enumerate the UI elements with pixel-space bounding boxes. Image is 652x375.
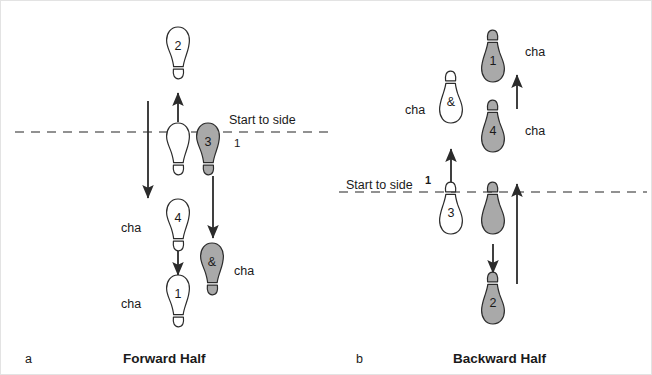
footprints-forward-half: 234&1 [167,27,224,327]
panel-caption-forward-half: Forward Half [123,352,206,366]
footprint-b-3: 3 [440,182,463,234]
cha-label-cha-b-4: cha [525,125,545,138]
footprint-f-3: 3 [197,123,220,175]
footprint-f-open [167,123,190,175]
start-to-side-label-forward: Start to side [229,114,296,127]
start-beat-backward: 1 [425,175,431,186]
footprint-step-number: & [208,255,217,269]
footprint-f-2: 2 [167,27,190,79]
footprint-step-number: 4 [490,124,497,138]
footprint-step-number: 2 [175,39,182,53]
footwork-diagram-svg: 234&1 1&432 [1,1,652,375]
footprint-step-number: 3 [205,135,212,149]
footprint-b-amp: & [440,71,463,123]
panel-letter-b: b [356,353,363,366]
cha-label-cha-left-4: cha [121,222,141,235]
start-to-side-label-backward: Start to side [346,179,413,192]
dashed-lines-group [15,132,647,192]
footprint-shape [167,123,190,175]
footprint-step-number: & [447,95,456,109]
cha-label-cha-amp: cha [234,265,254,278]
panel-caption-backward-half: Backward Half [453,352,546,366]
cha-label-cha-b-1: cha [525,46,545,59]
footprint-b-open [482,182,505,234]
footprint-step-number: 1 [490,54,497,68]
footprints-backward-half: 1&432 [440,30,505,324]
footprint-shape [482,182,505,234]
footprint-step-number: 2 [490,296,497,310]
footprint-f-1: 1 [167,275,190,327]
footprint-f-amp: & [201,243,224,295]
figure-container: 234&1 1&432 chachacha chachacha Start to… [0,0,652,375]
footprint-b-2: 2 [482,272,505,324]
panel-letter-a: a [25,353,32,366]
footprint-step-number: 4 [175,211,182,225]
footprint-b-4: 4 [482,100,505,152]
footprint-f-4: 4 [167,199,190,251]
footprint-b-1: 1 [482,30,505,82]
cha-label-cha-b-amp: cha [405,104,425,117]
start-beat-forward: 1 [234,138,240,150]
cha-label-cha-left-1: cha [121,298,141,311]
footprint-step-number: 3 [448,206,455,220]
footprint-step-number: 1 [175,287,182,301]
